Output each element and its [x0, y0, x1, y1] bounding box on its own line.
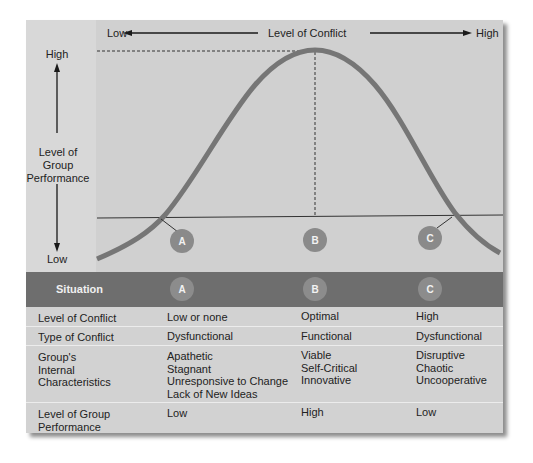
x-axis-low-label: Low [107, 27, 127, 40]
leader-line-c [437, 217, 452, 228]
y-axis-low-label: Low [27, 253, 87, 266]
marker-c: C [418, 226, 442, 250]
y-axis-up-arrowhead-icon [54, 63, 60, 72]
baseline [97, 215, 503, 218]
y-axis-title: Level of Group Performance [26, 146, 90, 185]
performance-curve [97, 50, 500, 259]
y-axis-down-arrowhead-icon [54, 243, 60, 252]
marker-a: A [170, 229, 194, 253]
y-axis-high-label: High [27, 48, 87, 61]
x-axis-title: Level of Conflict [268, 27, 346, 40]
x-axis-right-arrowhead-icon [463, 30, 472, 36]
conflict-performance-chart [0, 0, 533, 463]
marker-b: B [303, 228, 327, 252]
x-axis-high-label: High [476, 27, 499, 40]
